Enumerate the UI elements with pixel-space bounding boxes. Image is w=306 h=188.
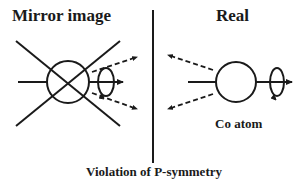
mirror-image-atom-group <box>16 41 137 126</box>
emission-arrow-lower-left-panel <box>92 93 137 109</box>
diagram-caption: Violation of P-symmetry <box>86 164 222 180</box>
real-atom-group <box>168 55 292 109</box>
emission-arrow-lower-right-panel <box>168 94 213 109</box>
emission-arrow-upper-right-panel <box>168 55 213 70</box>
real-title: Real <box>216 6 249 26</box>
mirror-image-title: Mirror image <box>12 6 111 26</box>
co-atom-label: Co atom <box>215 116 262 132</box>
parity-diagram <box>0 0 306 188</box>
co-atom-circle <box>216 62 256 102</box>
